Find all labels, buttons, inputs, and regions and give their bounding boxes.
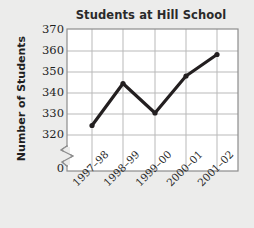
data-point-2000-01: [183, 73, 188, 78]
axis-break-mask: [64, 147, 70, 165]
plot-background: [67, 29, 238, 171]
data-point-2001-02: [214, 52, 219, 57]
line-chart: Students at Hill School Number of Studen…: [0, 0, 254, 228]
data-point-1998-99: [120, 81, 125, 86]
data-point-1997-98: [89, 123, 94, 128]
data-point-1999-00: [152, 110, 157, 115]
plot-area: [0, 0, 254, 228]
